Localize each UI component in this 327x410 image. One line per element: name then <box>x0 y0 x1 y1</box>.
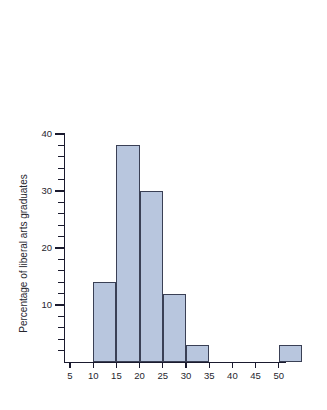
histogram-bar <box>186 345 209 362</box>
x-tick <box>209 362 210 368</box>
y-tick-minor <box>58 293 64 294</box>
histogram-bar <box>93 282 116 362</box>
y-tick-major <box>55 304 64 305</box>
histogram-bar <box>140 191 163 362</box>
y-tick-label: 40 <box>14 129 52 139</box>
y-tick-minor <box>58 282 64 283</box>
x-tick <box>93 362 94 368</box>
y-tick-minor <box>58 350 64 351</box>
x-tick <box>232 362 233 368</box>
y-axis-line <box>64 133 65 363</box>
x-tick <box>139 362 140 368</box>
y-tick-minor <box>58 145 64 146</box>
y-tick-minor <box>58 270 64 271</box>
y-tick-minor <box>58 168 64 169</box>
y-tick-major <box>55 133 64 134</box>
y-axis-title: Percentage of liberal arts graduates <box>18 154 29 354</box>
y-tick-major <box>55 247 64 248</box>
y-tick-minor <box>58 179 64 180</box>
x-tick <box>278 362 279 368</box>
y-tick-minor <box>58 259 64 260</box>
y-tick-minor <box>58 213 64 214</box>
histogram-figure: Percentage of liberal arts graduates 102… <box>0 0 327 410</box>
x-tick <box>69 362 70 368</box>
y-tick-minor <box>58 202 64 203</box>
y-tick-minor <box>58 327 64 328</box>
x-tick <box>116 362 117 368</box>
x-axis-line <box>64 362 286 363</box>
x-tick <box>255 362 256 368</box>
x-tick <box>185 362 186 368</box>
histogram-bar <box>279 345 302 362</box>
y-tick-minor <box>58 316 64 317</box>
y-tick-label: 30 <box>14 186 52 196</box>
histogram-bar <box>163 294 186 362</box>
y-tick-minor <box>58 236 64 237</box>
x-tick <box>162 362 163 368</box>
y-tick-minor <box>58 339 64 340</box>
plot-area: Percentage of liberal arts graduates 102… <box>0 0 327 410</box>
y-tick-major <box>55 190 64 191</box>
x-tick-label: 50 <box>264 371 294 381</box>
y-tick-label: 10 <box>14 300 52 310</box>
histogram-bar <box>116 145 139 362</box>
y-tick-minor <box>58 156 64 157</box>
y-tick-label: 20 <box>14 243 52 253</box>
y-tick-minor <box>58 225 64 226</box>
